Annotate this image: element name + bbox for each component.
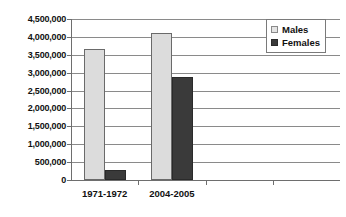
legend-item-females: Females xyxy=(271,36,320,49)
x-axis-category-label: 2004-2005 xyxy=(149,188,194,199)
chart-legend: Males Females xyxy=(266,19,326,53)
legend-item-males: Males xyxy=(271,23,320,36)
legend-label-females: Females xyxy=(282,38,320,48)
legend-label-males: Males xyxy=(282,25,308,35)
y-axis-labels: 4,500,0004,000,0003,500,0003,000,0002,50… xyxy=(0,0,66,217)
bar-females-2004-2005 xyxy=(172,77,193,180)
y-axis-tick-label: 3,000,000 xyxy=(2,68,66,77)
x-axis-tick xyxy=(138,180,139,185)
y-axis-tick-label: 4,000,000 xyxy=(2,32,66,41)
x-axis-tick xyxy=(273,180,274,185)
legend-swatch-females-icon xyxy=(271,39,278,46)
x-axis-category-label: 1971-1972 xyxy=(82,188,127,199)
bar-males-1971-1972 xyxy=(84,49,105,180)
y-axis-tick-label: 2,000,000 xyxy=(2,104,66,113)
y-axis-tick-label: 500,000 xyxy=(2,158,66,167)
bar-males-2004-2005 xyxy=(151,33,172,180)
y-axis-tick-label: 3,500,000 xyxy=(2,50,66,59)
legend-swatch-males-icon xyxy=(271,26,278,33)
y-axis-tick-label: 1,500,000 xyxy=(2,122,66,131)
y-axis-tick-label: 1,000,000 xyxy=(2,140,66,149)
y-axis-tick-label: 0 xyxy=(2,176,66,185)
y-axis-tick-label: 4,500,000 xyxy=(2,15,66,24)
x-axis-labels: 1971-19722004-2005 xyxy=(71,188,340,208)
y-axis-tick xyxy=(67,180,72,181)
y-axis-tick-label: 2,500,000 xyxy=(2,86,66,95)
bar-chart: 4,500,0004,000,0003,500,0003,000,0002,50… xyxy=(0,0,346,217)
bar-females-1971-1972 xyxy=(105,170,126,180)
x-axis-tick xyxy=(206,180,207,185)
